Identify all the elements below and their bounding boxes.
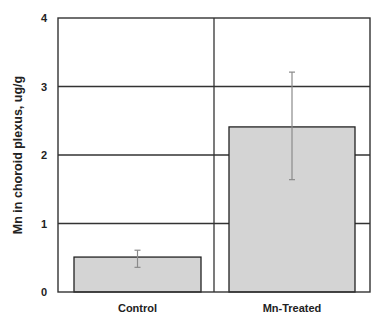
y-tick-label: 4 xyxy=(41,12,48,24)
y-tick-label: 0 xyxy=(41,286,47,298)
x-category-label: Control xyxy=(118,302,157,314)
y-tick-labels: 01234 xyxy=(41,12,48,298)
y-axis-label: Mn in choroid plexus, ug/g xyxy=(11,76,25,234)
bar-chart: 01234 ControlMn-Treated Mn in choroid pl… xyxy=(0,0,383,327)
y-tick-label: 3 xyxy=(41,81,47,93)
x-category-label: Mn-Treated xyxy=(263,302,322,314)
y-tick-label: 2 xyxy=(41,149,47,161)
y-tick-label: 1 xyxy=(41,218,47,230)
x-category-labels: ControlMn-Treated xyxy=(118,302,321,314)
